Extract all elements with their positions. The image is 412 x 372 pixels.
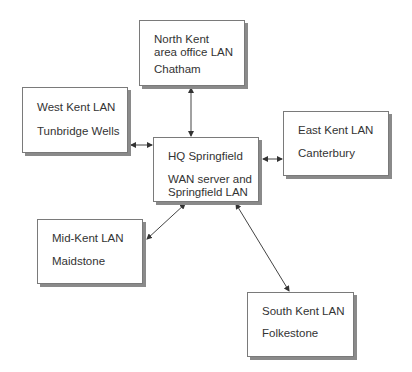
node-south-kent: South Kent LAN Folkestone: [247, 292, 354, 357]
node-location: Chatham: [154, 63, 201, 76]
node-north-kent: North Kent area office LAN Chatham: [139, 20, 245, 86]
node-title: Mid-Kent LAN: [52, 232, 124, 245]
node-title: East Kent LAN: [298, 124, 373, 137]
node-title: North Kent area office LAN: [154, 33, 233, 59]
node-title: West Kent LAN: [37, 101, 115, 114]
node-location: Canterbury: [298, 147, 355, 160]
node-east-kent: East Kent LAN Canterbury: [283, 111, 389, 176]
node-mid-kent: Mid-Kent LAN Maidstone: [37, 219, 143, 284]
node-location: Folkestone: [262, 327, 318, 340]
node-title: HQ Springfield: [168, 150, 243, 163]
node-hq-springfield: HQ Springfield WAN server and Springfiel…: [153, 137, 259, 202]
edge-hq-south: [236, 204, 289, 291]
node-location: Tunbridge Wells: [37, 125, 119, 138]
node-location: WAN server and Springfield LAN: [168, 173, 252, 199]
edge-hq-mid: [147, 204, 185, 239]
node-title: South Kent LAN: [262, 305, 344, 318]
node-location: Maidstone: [52, 255, 105, 268]
node-west-kent: West Kent LAN Tunbridge Wells: [22, 87, 128, 153]
